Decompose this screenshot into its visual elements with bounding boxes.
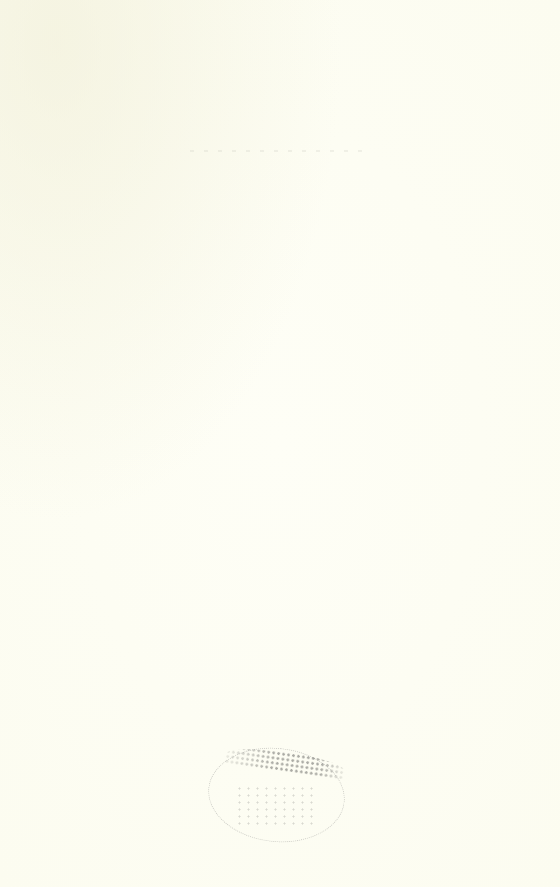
blank-document-page	[0, 0, 560, 887]
library-stamp-inner-marks	[235, 785, 315, 825]
faint-bleed-through-mark	[190, 150, 370, 152]
